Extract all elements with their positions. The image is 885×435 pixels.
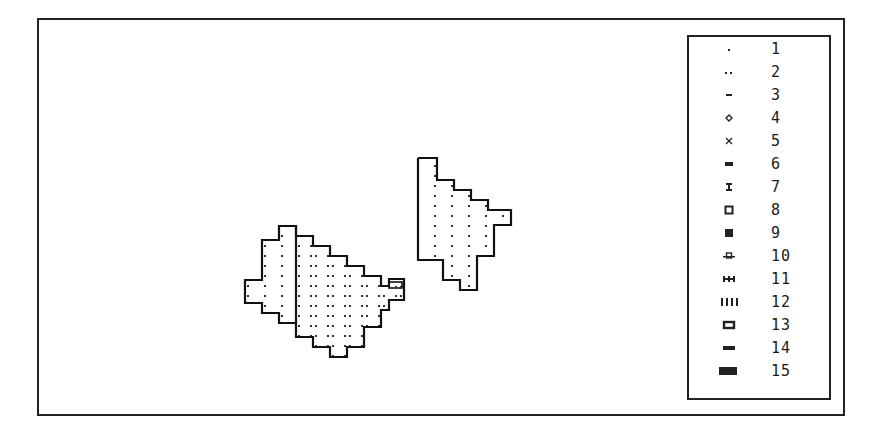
- small-bar-icon: [709, 154, 749, 174]
- long-dash-icon: [709, 338, 749, 358]
- x-mark-icon: [709, 131, 749, 151]
- legend-label: 15: [771, 361, 791, 381]
- legend-item: 9: [689, 223, 829, 243]
- legend-label: 3: [771, 85, 781, 105]
- legend-item: 4: [689, 108, 829, 128]
- legend-label: 4: [771, 108, 781, 128]
- i-beam-icon: [709, 177, 749, 197]
- short-dash-icon: [709, 85, 749, 105]
- hollow-square-icon: [709, 200, 749, 220]
- left-region: [245, 226, 404, 357]
- legend-label: 2: [771, 62, 781, 82]
- filled-square-icon: [709, 223, 749, 243]
- legend-item: 10: [689, 246, 829, 266]
- legend-box: 1 2 3 4 5 6 7 8 9 10: [687, 35, 831, 400]
- legend-label: 11: [771, 269, 791, 289]
- legend-label: 1: [771, 39, 781, 59]
- hollow-rectangle-icon: [709, 315, 749, 335]
- legend-item: 3: [689, 85, 829, 105]
- legend-item: 12: [689, 292, 829, 312]
- legend-item: 15: [689, 361, 829, 381]
- double-dot-icon: [709, 62, 749, 82]
- legend-item: 8: [689, 200, 829, 220]
- legend-item: 7: [689, 177, 829, 197]
- legend-item: 6: [689, 154, 829, 174]
- legend-label: 10: [771, 246, 791, 266]
- legend-item: 1: [689, 39, 829, 59]
- single-dot-icon: [709, 39, 749, 59]
- legend-item: 5: [689, 131, 829, 151]
- legend-item: 2: [689, 62, 829, 82]
- legend-label: 12: [771, 292, 791, 312]
- diamond-icon: [709, 108, 749, 128]
- legend-item: 13: [689, 315, 829, 335]
- four-bars-icon: [709, 292, 749, 312]
- dashed-circle-icon: [709, 246, 749, 266]
- legend-item: 14: [689, 338, 829, 358]
- legend-label: 6: [771, 154, 781, 174]
- right-region: [418, 158, 511, 290]
- legend-label: 13: [771, 315, 791, 335]
- legend-label: 14: [771, 338, 791, 358]
- legend-label: 8: [771, 200, 781, 220]
- legend-label: 5: [771, 131, 781, 151]
- legend-label: 9: [771, 223, 781, 243]
- legend-item: 11: [689, 269, 829, 289]
- triple-tick-icon: [709, 269, 749, 289]
- legend-label: 7: [771, 177, 781, 197]
- filled-rectangle-icon: [709, 361, 749, 381]
